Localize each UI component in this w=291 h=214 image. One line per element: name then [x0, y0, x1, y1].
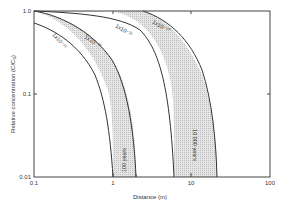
x-tick-0.1: 0.1 — [30, 180, 39, 186]
label-100-years: 100 years — [121, 148, 127, 172]
y-tick-0.1: 0.1 — [23, 91, 32, 97]
y-tick-0.01: 0.01 — [19, 174, 31, 180]
x-tick-10: 10 — [188, 180, 195, 186]
label-10000-years: 10 000 years — [192, 129, 198, 161]
y-tick-1.0: 1.0 — [23, 8, 32, 14]
x-tick-1: 1 — [111, 180, 115, 186]
y-axis-label: Relative concentration (C/C₀) — [10, 55, 16, 133]
chart-container: 0.1 1 10 100 1.0 0.1 0.01 Distance (m) R… — [0, 0, 291, 214]
x-axis-label: Distance (m) — [133, 194, 167, 200]
x-tick-100: 100 — [265, 180, 276, 186]
label-100y-1e-11: 1x10⁻¹¹ — [51, 32, 68, 50]
